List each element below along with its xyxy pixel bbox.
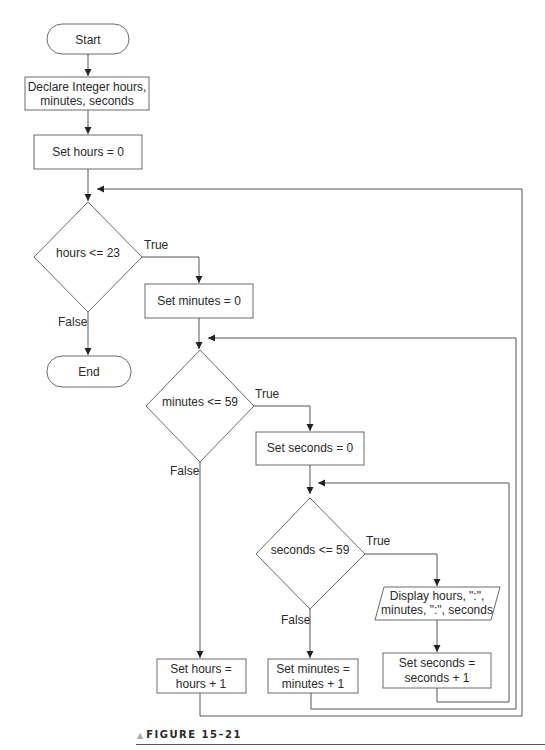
seconds-false-label: False [281, 613, 311, 627]
seconds-true-label: True [366, 534, 391, 548]
arrow-seconds-true [365, 554, 437, 586]
set-minutes-label: Set minutes = 0 [157, 294, 241, 308]
inc-hours-line-1: Set hours = [170, 662, 232, 676]
minutes-decision: minutes <= 59 [146, 350, 254, 462]
set-hours-label: Set hours = 0 [52, 145, 124, 159]
inc-hours-line-2: hours + 1 [176, 677, 227, 691]
start-label: Start [75, 33, 101, 47]
set-minutes-process: Set minutes = 0 [145, 284, 253, 318]
inc-hours-process: Set hours = hours + 1 [157, 659, 246, 693]
arrow-hours-true [142, 257, 199, 283]
set-seconds-process: Set seconds = 0 [256, 432, 364, 465]
inc-minutes-line-1: Set minutes = [276, 662, 350, 676]
declare-line-2: minutes, seconds [40, 94, 133, 108]
hours-decision: hours <= 23 [34, 202, 142, 312]
hours-decision-label: hours <= 23 [56, 246, 120, 260]
end-label: End [78, 365, 99, 379]
inc-seconds-line-2: seconds + 1 [404, 671, 469, 685]
inc-seconds-line-1: Set seconds = [399, 656, 475, 670]
inc-minutes-process: Set minutes = minutes + 1 [268, 659, 358, 693]
set-hours-process: Set hours = 0 [34, 135, 142, 169]
minutes-false-label: False [170, 464, 200, 478]
inc-seconds-process: Set seconds = seconds + 1 [383, 653, 491, 688]
set-seconds-label: Set seconds = 0 [267, 441, 354, 455]
hours-false-label: False [58, 315, 88, 329]
caption-rule [136, 744, 545, 745]
minutes-true-label: True [255, 387, 280, 401]
caption-text: FIGURE 15–21 [146, 729, 242, 740]
end-terminator: End [47, 356, 131, 387]
seconds-decision: seconds <= 59 [256, 498, 365, 609]
inc-minutes-line-2: minutes + 1 [282, 677, 345, 691]
minutes-decision-label: minutes <= 59 [162, 395, 238, 409]
seconds-decision-label: seconds <= 59 [271, 543, 350, 557]
arrow-minutes-true [254, 406, 310, 431]
figure-caption: ▲FIGURE 15–21 [137, 729, 242, 740]
display-line-1: Display hours, ":", [390, 589, 485, 603]
caption-marker-icon: ▲ [137, 731, 143, 740]
declare-line-1: Declare Integer hours, [28, 80, 147, 94]
start-terminator: Start [47, 24, 129, 54]
hours-true-label: True [144, 238, 169, 252]
display-output: Display hours, ":", minutes, ":", second… [375, 587, 500, 620]
declare-process: Declare Integer hours, minutes, seconds [25, 77, 149, 110]
display-line-2: minutes, ":", seconds [381, 603, 493, 617]
